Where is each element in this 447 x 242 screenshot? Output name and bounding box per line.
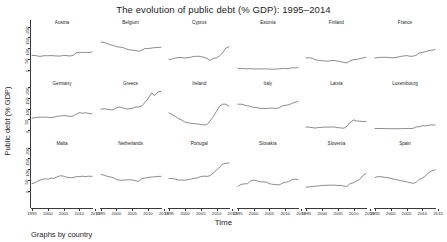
y-tick-label: 200 <box>25 87 30 94</box>
panel-title: Estonia <box>237 20 299 26</box>
data-line <box>169 46 229 60</box>
series-line-cyprus <box>168 27 230 70</box>
panel-plot-area <box>305 148 367 191</box>
x-tick-label: 2005 <box>56 211 72 216</box>
x-axis-line <box>100 208 162 209</box>
y-axis-label: Public debt (% GDP) <box>2 0 14 242</box>
panel-spain: Spain <box>374 141 436 201</box>
y-tick-label: 200 <box>25 148 30 155</box>
panel-slovakia: Slovakia <box>237 141 299 201</box>
panel-germany: Germany <box>31 81 93 141</box>
data-line <box>375 49 435 58</box>
series-line-slovenia <box>305 148 367 191</box>
panel-title: Cyprus <box>168 20 230 26</box>
panel-france: France <box>374 20 436 80</box>
series-line-estonia <box>237 27 299 70</box>
x-tick-label: 2005 <box>124 211 140 216</box>
y-tick-label: 100 <box>25 109 30 116</box>
panel-cyprus: Cyprus <box>168 20 230 80</box>
data-line <box>32 51 92 55</box>
data-line <box>375 169 435 182</box>
panel-title: Belgium <box>100 20 162 26</box>
series-line-belgium <box>100 27 162 70</box>
panel-plot-area <box>31 148 93 191</box>
data-line <box>238 102 298 109</box>
y-tick-label: 100 <box>25 169 30 176</box>
panel-title: Slovenia <box>305 141 367 147</box>
series-line-finland <box>305 27 367 70</box>
data-line <box>101 91 161 109</box>
y-tick-label: 100 <box>25 48 30 55</box>
y-tick-label: 0 <box>25 130 30 132</box>
series-line-germany <box>31 87 93 130</box>
x-tick-label: 2005 <box>399 211 415 216</box>
y-tick-label: 50 <box>25 119 30 124</box>
panel-plot-area <box>374 27 436 70</box>
y-tick-label: 150 <box>25 37 30 44</box>
panel-title: Finland <box>305 20 367 26</box>
x-tick-label: 2010 <box>346 211 362 216</box>
panel-title: Austria <box>31 20 93 26</box>
panel-netherlands: Netherlands <box>100 141 162 201</box>
series-line-portugal <box>168 148 230 191</box>
panel-title: Latvia <box>305 81 367 87</box>
panel-italy: Italy <box>237 81 299 141</box>
x-tick-label: 2005 <box>330 211 346 216</box>
x-tick-label: 1995 <box>367 211 383 216</box>
panel-austria: Austria <box>31 20 93 80</box>
chart-caption: Graphs by country <box>31 230 92 239</box>
x-tick-label: 2010 <box>414 211 430 216</box>
data-line <box>238 67 298 69</box>
x-axis-line <box>374 208 436 209</box>
series-line-austria <box>31 27 93 70</box>
panel-title: Luxembourg <box>374 81 436 87</box>
panel-belgium: Belgium <box>100 20 162 80</box>
panel-plot-area <box>237 27 299 70</box>
panel-title: Portugal <box>168 141 230 147</box>
x-tick-label: 2005 <box>261 211 277 216</box>
y-tick-label: 150 <box>25 98 30 105</box>
x-tick-label: 2015 <box>430 211 446 216</box>
panel-title: Ireland <box>168 81 230 87</box>
x-axis-line <box>237 208 299 209</box>
data-line <box>375 125 435 129</box>
x-tick-label: 2000 <box>40 211 56 216</box>
data-line <box>101 42 161 51</box>
y-tick-label: 50 <box>25 59 30 64</box>
panel-plot-area <box>374 148 436 191</box>
series-line-luxembourg <box>374 87 436 130</box>
y-tick-label: 150 <box>25 158 30 165</box>
panel-grid: AustriaBelgiumCyprusEstoniaFinlandFrance… <box>31 20 443 208</box>
panel-plot-area <box>100 87 162 130</box>
panel-title: Spain <box>374 141 436 147</box>
panel-estonia: Estonia <box>237 20 299 80</box>
series-line-france <box>374 27 436 70</box>
data-line <box>32 113 92 119</box>
series-line-spain <box>374 148 436 191</box>
x-tick-label: 1995 <box>230 211 246 216</box>
panel-title: Italy <box>237 81 299 87</box>
panel-plot-area <box>374 87 436 130</box>
series-line-malta <box>31 148 93 191</box>
series-line-slovakia <box>237 148 299 191</box>
data-line <box>169 163 229 180</box>
x-axis-line <box>31 208 93 209</box>
x-tick-label: 2005 <box>193 211 209 216</box>
y-tick-label: 0 <box>25 191 30 193</box>
y-tick-label: 50 <box>25 180 30 185</box>
x-axis-label: Time <box>0 218 447 227</box>
data-line <box>306 120 366 128</box>
panel-finland: Finland <box>305 20 367 80</box>
data-line <box>306 173 366 187</box>
x-tick-label: 2010 <box>277 211 293 216</box>
panel-plot-area <box>168 148 230 191</box>
panel-plot-area <box>31 87 93 130</box>
panel-title: Malta <box>31 141 93 147</box>
panel-plot-area <box>168 27 230 70</box>
series-line-netherlands <box>100 148 162 191</box>
series-line-greece <box>100 87 162 130</box>
y-tick-label: 200 <box>25 27 30 34</box>
x-axis-line <box>305 208 367 209</box>
x-tick-label: 2000 <box>108 211 124 216</box>
x-tick-label: 1995 <box>298 211 314 216</box>
